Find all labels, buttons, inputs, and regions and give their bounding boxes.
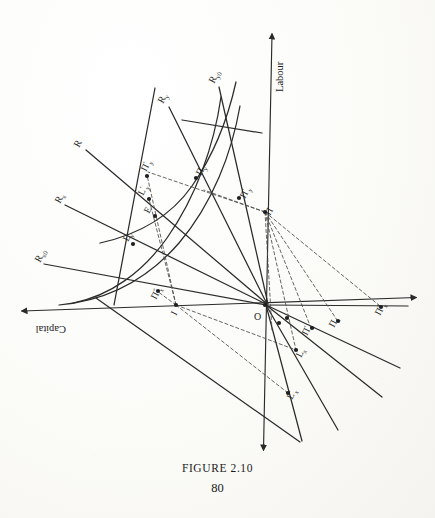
point-L-y — [131, 242, 135, 246]
dash-I-to-Lx — [176, 305, 296, 350]
labour-axis — [264, 34, 273, 450]
point-Pi-y — [194, 176, 198, 180]
capital-axis — [22, 298, 416, 312]
capital-axis-label: Capital — [36, 324, 66, 335]
figure-caption: FIGURE 2.10 — [0, 462, 435, 474]
rays-upper-left — [44, 87, 268, 305]
point-Pi-y-dpr — [145, 174, 149, 178]
labour-axis-label: Labour — [274, 61, 285, 92]
label-Pi: Π — [263, 206, 275, 217]
scanned-page: Labour Capital O R Rx Rx0 — [0, 0, 435, 518]
point-Pi-sub-x — [285, 316, 289, 320]
page-number: 80 — [0, 481, 435, 496]
origin-label: O — [254, 311, 261, 322]
line-E-down — [182, 120, 262, 133]
label-I: I — [169, 309, 179, 316]
label-Pi-x-prime: Π′x — [300, 321, 316, 337]
label-R-x: Rx — [52, 190, 68, 205]
label-R-y0: Ry0 — [206, 68, 223, 85]
point-L-y-pr — [147, 197, 151, 201]
label-L-x-prime: L′x — [285, 386, 301, 401]
point-E — [153, 214, 157, 218]
axis-lines — [22, 34, 416, 450]
label-R: R — [71, 138, 84, 149]
figure-caption-block: FIGURE 2.10 80 — [0, 462, 435, 496]
ray-Ry — [169, 107, 267, 304]
line-steep-left — [114, 88, 155, 305]
ray-Rx — [65, 205, 266, 304]
label-Pi-y: Πy — [194, 163, 209, 178]
label-R-x0: Rx0 — [32, 247, 49, 264]
point-O — [263, 303, 267, 307]
figure-diagram: Labour Capital O R Rx Rx0 — [0, 0, 435, 518]
isoquant-inner — [100, 82, 236, 243]
point-Pi-sub-x2 — [277, 321, 281, 325]
label-Pi-x-dprime: Π″x — [373, 300, 390, 318]
dash-Pi-to-Pixdpr — [265, 212, 380, 306]
point-I — [174, 303, 178, 307]
label-R-y: Ry — [155, 90, 171, 105]
dash-Pi-to-Piy0 — [204, 190, 265, 212]
ray-R — [86, 150, 267, 304]
label-Pi-x: Πx — [327, 315, 342, 330]
